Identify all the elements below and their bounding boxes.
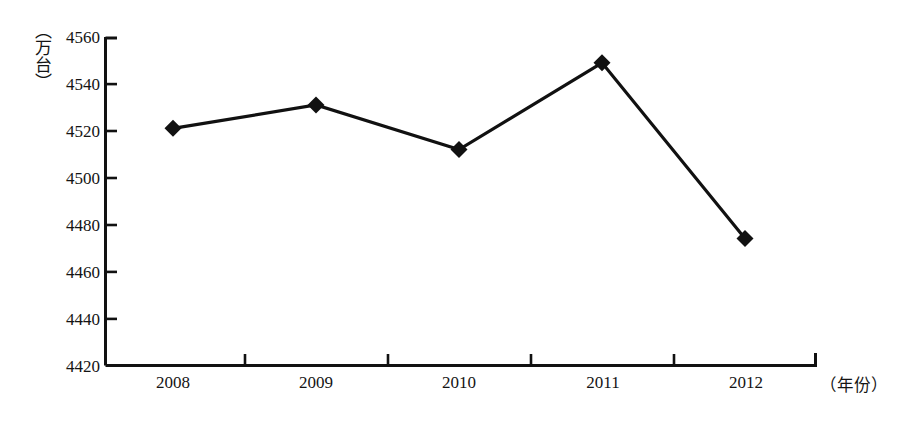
x-tick-label-2010: 2010: [414, 374, 504, 391]
line-chart: （万台） 4560 4540 4520 4500 4480 4460 4440 …: [0, 0, 902, 423]
x-tick-label-2009: 2009: [271, 374, 361, 391]
y-tick-label-4440: 4440: [44, 311, 100, 328]
x-axis-unit-label: （年份）: [820, 372, 888, 396]
chart-background: [0, 0, 902, 423]
x-tick-label-2012: 2012: [701, 374, 791, 391]
y-tick-label-4460: 4460: [44, 264, 100, 281]
chart-canvas: [0, 0, 902, 423]
y-tick-label-4480: 4480: [44, 217, 100, 234]
y-tick-label-4540: 4540: [44, 76, 100, 93]
x-tick-label-2008: 2008: [128, 374, 218, 391]
y-tick-label-4420: 4420: [44, 358, 100, 375]
x-tick-label-2011: 2011: [558, 374, 648, 391]
y-tick-label-4520: 4520: [44, 123, 100, 140]
y-tick-label-4560: 4560: [44, 29, 100, 46]
y-tick-label-4500: 4500: [44, 170, 100, 187]
